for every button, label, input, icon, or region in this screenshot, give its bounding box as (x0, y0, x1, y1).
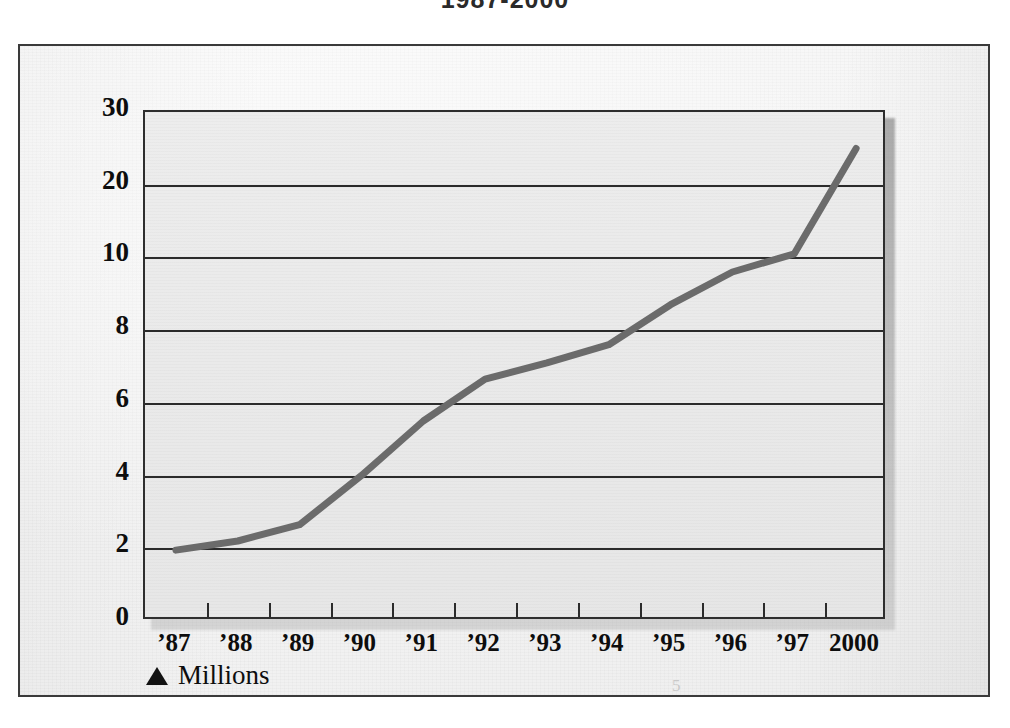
scan-artifact: 5 (672, 676, 681, 696)
y-axis-label-4: 4 (71, 456, 129, 487)
series-line-millions (176, 148, 856, 550)
chart-title: 1987-2000 (0, 0, 1010, 10)
y-axis-label-20: 20 (71, 165, 129, 196)
data-line-chart (145, 112, 887, 621)
triangle-up-icon (146, 667, 168, 685)
y-axis-label-10: 10 (71, 237, 129, 268)
y-axis-label-8: 8 (71, 310, 129, 341)
y-axis-label-0: 0 (71, 601, 129, 632)
legend: Millions (146, 660, 270, 691)
y-axis-label-30: 30 (71, 92, 129, 123)
plot-area (143, 110, 885, 619)
y-axis-label-2: 2 (71, 528, 129, 559)
x-axis-label-2000: 2000 (809, 629, 899, 657)
y-axis-label-6: 6 (71, 383, 129, 414)
legend-label: Millions (178, 660, 270, 691)
